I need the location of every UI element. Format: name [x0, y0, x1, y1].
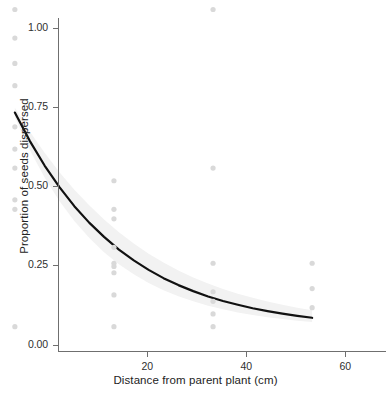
data-point [111, 216, 116, 221]
data-point [210, 289, 215, 294]
x-tick-label: 40 [221, 360, 271, 372]
x-tick-label: 20 [122, 360, 172, 372]
data-point [310, 305, 315, 310]
y-tick-mark [53, 186, 58, 187]
data-point [310, 261, 315, 266]
y-axis-spine [58, 18, 59, 352]
y-tick-label: 0.00 [2, 338, 48, 350]
data-point [210, 299, 215, 304]
confidence-band [15, 108, 312, 322]
scatter-plot-figure: 0.000.250.500.751.00 204060 Proportion o… [0, 0, 391, 401]
data-point [111, 292, 116, 297]
data-point [210, 7, 215, 12]
data-point [111, 245, 116, 250]
data-point [310, 286, 315, 291]
y-tick-mark [53, 265, 58, 266]
data-point [111, 207, 116, 212]
x-tick-mark [147, 352, 148, 357]
data-point [210, 311, 215, 316]
y-tick-mark [53, 345, 58, 346]
data-point [12, 324, 17, 329]
data-point [210, 324, 215, 329]
data-point [12, 165, 17, 170]
data-point [210, 165, 215, 170]
x-tick-mark [345, 352, 346, 357]
data-point [111, 264, 116, 269]
data-point [111, 324, 116, 329]
x-axis-title: Distance from parent plant (cm) [0, 374, 391, 386]
data-point [12, 124, 17, 129]
data-point [210, 261, 215, 266]
x-tick-mark [246, 352, 247, 357]
y-tick-label: 1.00 [2, 21, 48, 33]
y-tick-mark [53, 28, 58, 29]
data-point [12, 207, 17, 212]
plot-canvas [0, 0, 327, 333]
data-point [12, 146, 17, 151]
data-point [12, 61, 17, 66]
x-tick-label: 60 [320, 360, 370, 372]
x-axis-spine [58, 351, 386, 352]
data-point [111, 178, 116, 183]
y-axis-title: Proportion of seeds dispersed [18, 66, 30, 286]
data-point [12, 35, 17, 40]
data-point [12, 83, 17, 88]
data-point [12, 7, 17, 12]
data-point [12, 197, 17, 202]
y-tick-mark [53, 107, 58, 108]
data-point [111, 270, 116, 275]
